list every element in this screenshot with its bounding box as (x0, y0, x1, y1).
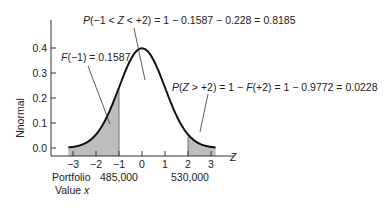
annotation-middle-rest: (−1 < (90, 14, 117, 26)
annotation-right-c: (+2) = 1 − 0.9772 = 0.0228 (253, 81, 378, 93)
annotation-middle-p: P (83, 14, 90, 26)
x-tick-label: −2 (90, 158, 102, 170)
annotation-right: P(Z > +2) = 1 − F(+2) = 1 − 0.9772 = 0.0… (172, 81, 378, 93)
portfolio-value-485000: 485,000 (100, 171, 138, 183)
portfolio-value-text: Value (55, 184, 84, 196)
annotation-right-p: P (172, 81, 179, 93)
y-tick-label: 0.3 (32, 67, 47, 79)
annotation-middle: P(−1 < Z < +2) = 1 − 0.1587 − 0.228 = 0.… (83, 14, 296, 26)
x-axis-label: Z (229, 151, 237, 163)
annotation-left: F(−1) = 0.1587 (61, 51, 131, 63)
y-tick-label: 0.2 (32, 92, 47, 104)
annotation-left-rest: (−1) = 0.1587 (67, 51, 130, 63)
y-tick-label: 0.1 (32, 117, 47, 129)
portfolio-x-var: x (83, 184, 90, 196)
x-tick-label: 0 (139, 158, 145, 170)
x-tick-label: 3 (208, 158, 214, 170)
annotation-right-b: > +2) = 1 − (189, 81, 246, 93)
x-tick-label: 1 (162, 158, 168, 170)
x-tick-label: 2 (185, 158, 191, 170)
portfolio-label-line1: Portfolio (52, 171, 91, 183)
x-tick-label: −1 (113, 158, 125, 170)
leader-line-middle (134, 28, 145, 80)
portfolio-value-530000: 530,000 (171, 171, 209, 183)
annotation-middle-tail: < +2) = 1 − 0.1587 − 0.228 = 0.8185 (124, 14, 296, 26)
leader-line-left (88, 66, 110, 124)
y-tick-label: 0.4 (32, 42, 47, 54)
y-tick-label: 0.0 (32, 142, 47, 154)
normal-distribution-chart: 0.00.10.20.30.4 −3−2−10123 Nnormal Z P(−… (0, 0, 392, 208)
normal-curve (68, 48, 215, 147)
y-axis-ticks: 0.00.10.20.30.4 (32, 42, 56, 154)
leader-line-right (200, 94, 208, 132)
x-tick-label: −3 (67, 158, 79, 170)
y-axis-label: Nnormal (14, 98, 26, 138)
portfolio-label-line2: Value x (55, 184, 90, 196)
